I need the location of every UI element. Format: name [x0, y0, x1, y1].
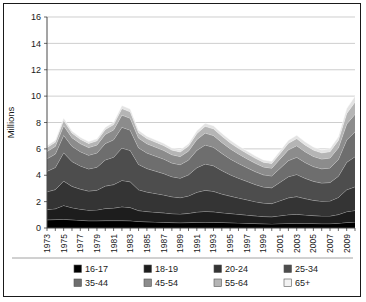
- x-tick-label-1975: 1975: [59, 234, 69, 253]
- legend-swatch-35-44: [74, 279, 82, 287]
- x-tick-label-1989: 1989: [175, 234, 185, 253]
- y-tick-label-8: 8: [36, 118, 41, 128]
- y-tick-label-14: 14: [31, 39, 41, 49]
- x-tick-label-2001: 2001: [275, 234, 285, 253]
- legend-label-45-54: 45-54: [155, 278, 178, 288]
- legend-swatch-65+: [284, 279, 292, 287]
- stacked-area-chart: 0246810121416Millions1973197519771979198…: [0, 0, 366, 302]
- y-tick-label-0: 0: [36, 223, 41, 233]
- x-tick-label-1995: 1995: [225, 234, 235, 253]
- legend-item-20-24[interactable]: 20-24: [214, 264, 248, 274]
- x-tick-label-2005: 2005: [308, 234, 318, 253]
- legend-label-20-24: 20-24: [225, 264, 248, 274]
- x-tick-label-1973: 1973: [42, 234, 52, 253]
- legend-label-65+: 65+: [295, 278, 310, 288]
- legend-swatch-20-24: [214, 265, 222, 273]
- x-tick-label-1985: 1985: [142, 234, 152, 253]
- x-tick-label-1991: 1991: [192, 234, 202, 253]
- chart-svg: 0246810121416Millions1973197519771979198…: [0, 0, 366, 302]
- x-tick-label-1997: 1997: [242, 234, 252, 253]
- legend-swatch-25-34: [284, 265, 292, 273]
- legend-item-65+[interactable]: 65+: [284, 278, 310, 288]
- x-tick-label-2007: 2007: [325, 234, 335, 253]
- legend-item-35-44[interactable]: 35-44: [74, 278, 108, 288]
- legend-swatch-55-64: [214, 279, 222, 287]
- legend-label-18-19: 18-19: [155, 264, 178, 274]
- x-tick-label-2003: 2003: [292, 234, 302, 253]
- y-tick-label-4: 4: [36, 170, 41, 180]
- y-tick-label-16: 16: [31, 12, 41, 22]
- x-tick-label-1979: 1979: [92, 234, 102, 253]
- x-tick-label-2009: 2009: [342, 234, 352, 253]
- legend-item-18-19[interactable]: 18-19: [144, 264, 178, 274]
- legend-swatch-45-54: [144, 279, 152, 287]
- y-tick-label-2: 2: [36, 197, 41, 207]
- x-tick-label-1977: 1977: [75, 234, 85, 253]
- x-tick-label-1981: 1981: [109, 234, 119, 253]
- legend-item-16-17[interactable]: 16-17: [74, 264, 108, 274]
- y-tick-label-12: 12: [31, 65, 41, 75]
- x-tick-label-1993: 1993: [208, 234, 218, 253]
- x-tick-label-1983: 1983: [125, 234, 135, 253]
- legend-label-25-34: 25-34: [295, 264, 318, 274]
- legend-label-35-44: 35-44: [85, 278, 108, 288]
- legend-swatch-18-19: [144, 265, 152, 273]
- x-tick-label-1987: 1987: [159, 234, 169, 253]
- y-tick-label-6: 6: [36, 144, 41, 154]
- legend-item-25-34[interactable]: 25-34: [284, 264, 318, 274]
- x-tick-label-1999: 1999: [258, 234, 268, 253]
- y-axis-title: Millions: [5, 106, 16, 138]
- legend-item-55-64[interactable]: 55-64: [214, 278, 248, 288]
- legend-item-45-54[interactable]: 45-54: [144, 278, 178, 288]
- legend-swatch-16-17: [74, 265, 82, 273]
- legend-label-55-64: 55-64: [225, 278, 248, 288]
- legend-label-16-17: 16-17: [85, 264, 108, 274]
- y-tick-label-10: 10: [31, 91, 41, 101]
